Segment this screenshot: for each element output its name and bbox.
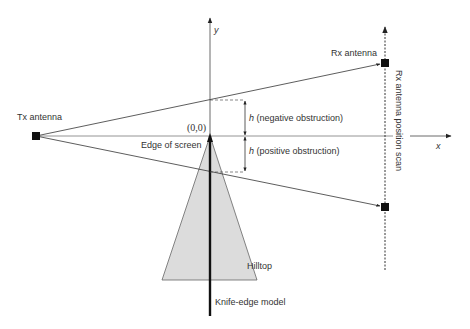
edge-of-screen-label: Edge of screen (141, 140, 202, 150)
knife-edge-diffraction-diagram: y x Rx antenna position scan h (negative… (0, 0, 470, 329)
tx-antenna-label: Tx antenna (17, 112, 62, 122)
hilltop-label: Hilltop (247, 261, 272, 271)
ray-upper (36, 64, 380, 136)
h-negative-label: h (negative obstruction) (249, 113, 343, 123)
y-axis-label: y (213, 25, 219, 35)
rx-antenna-label: Rx antenna (331, 48, 377, 58)
origin-label: (0,0) (187, 122, 206, 134)
h-positive-label: h (positive obstruction) (249, 146, 340, 156)
knife-edge-tip (207, 133, 213, 142)
rx-antenna-marker-bottom (381, 203, 389, 211)
rx-scan-label: Rx antenna position scan (394, 70, 404, 171)
tx-antenna-marker (32, 132, 40, 140)
x-axis-label: x (435, 141, 441, 151)
knife-edge-label: Knife-edge model (215, 297, 286, 307)
rx-antenna-marker-top (381, 59, 389, 67)
